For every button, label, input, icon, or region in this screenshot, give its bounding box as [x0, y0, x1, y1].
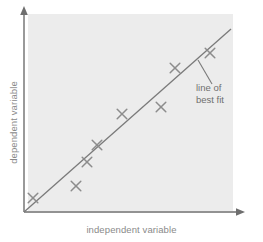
y-axis-label: dependent variable	[8, 58, 19, 188]
scatter-plot-figure: dependent variable independent variable …	[0, 0, 263, 242]
line-of-best-fit-annotation: line of best fit	[196, 82, 224, 105]
x-axis-label: independent variable	[0, 224, 263, 235]
plot-canvas	[0, 0, 263, 242]
annotation-line-2: best fit	[196, 94, 224, 106]
x-axis-arrow-icon	[236, 208, 245, 216]
annotation-line-1: line of	[196, 82, 224, 94]
y-axis-arrow-icon	[20, 6, 28, 15]
